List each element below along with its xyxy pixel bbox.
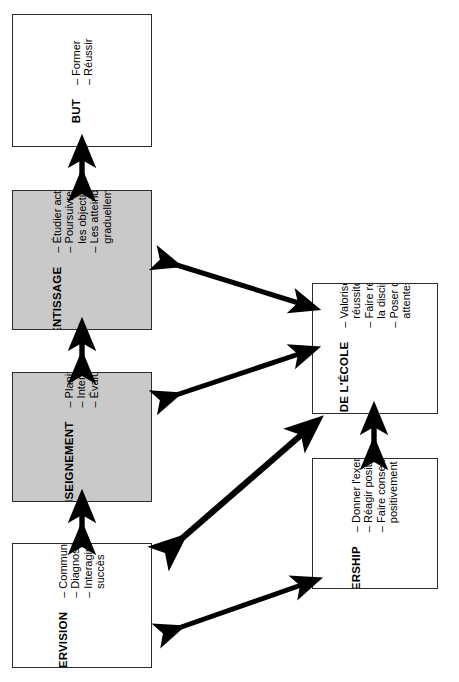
list-item: – Interagir (76, 372, 88, 408)
box-apprentissage-items: – Étudier activement – Poursuivre tousle… (51, 190, 113, 253)
list-item: – Donner l'exemple (350, 458, 362, 532)
cropped-header-text (96, 0, 326, 6)
list-item: – Étudier activement (51, 190, 63, 253)
list-item-continuation: les objectifs (76, 190, 88, 253)
box-leadership-items: – Donner l'exemple – Réagir positivement… (350, 458, 400, 532)
connector-apprentissage-climat (167, 262, 305, 305)
list-item-continuation: positivement (387, 458, 399, 532)
diagram-canvas: BUT – Former – Réussir APPRENTISSAGE – É… (0, 0, 459, 682)
list-item-continuation: la discipline (375, 283, 387, 327)
list-item: – Interagir avecsuccès (82, 543, 107, 597)
list-item: – Réagir positivement (363, 458, 375, 532)
box-enseignement[interactable]: ENSEIGNEMENT – Planifier – Interagir – É… (12, 372, 152, 502)
list-item: – Communiquer (57, 543, 69, 597)
box-supervision-content: SUPERVISION – Communiquer – Diagnostique… (57, 543, 107, 668)
box-leadership-content: LEADERSHIP – Donner l'exemple – Réagir p… (350, 458, 400, 589)
box-apprentissage[interactable]: APPRENTISSAGE – Étudier activement – Pou… (12, 190, 152, 330)
list-item: – Réussir (82, 38, 94, 84)
list-item: – Former (70, 40, 82, 85)
list-item-continuation: attentes élevées (400, 283, 412, 327)
box-leadership-title: LEADERSHIP (350, 532, 362, 589)
list-item: – Faire régnerla discipline (363, 283, 388, 327)
box-but-content: BUT – Former – Réussir (70, 38, 95, 123)
list-item-continuation: graduellement (101, 190, 113, 253)
box-apprentissage-content: APPRENTISSAGE – Étudier activement – Pou… (51, 190, 113, 330)
list-item: – Poser desattentes élevées (387, 283, 412, 327)
list-item: – Évaluer (88, 372, 100, 408)
box-but-items: – Former – Réussir (70, 38, 95, 84)
box-climat-title: CLIMAT DE L'ÉCOLE (338, 327, 350, 414)
list-item-continuation: réussite scolaire (350, 283, 362, 327)
list-item: – Valoriser laréussite scolaire (338, 283, 363, 327)
box-climat-items: – Valoriser laréussite scolaire – Faire … (338, 283, 412, 327)
list-item: – Planifier (63, 372, 75, 408)
list-item: – Diagnostiquer (70, 543, 82, 597)
box-but[interactable]: BUT – Former – Réussir (12, 14, 152, 147)
box-enseignement-title: ENSEIGNEMENT (63, 408, 75, 502)
box-enseignement-content: ENSEIGNEMENT – Planifier – Interagir – É… (63, 372, 100, 502)
box-apprentissage-title: APPRENTISSAGE (51, 253, 63, 330)
box-supervision[interactable]: SUPERVISION – Communiquer – Diagnostique… (12, 543, 152, 668)
box-climat-de-lecole[interactable]: CLIMAT DE L'ÉCOLE – Valoriser laréussite… (312, 283, 438, 414)
connector-enseignement-climat (167, 352, 305, 398)
box-enseignement-items: – Planifier – Interagir – Évaluer (63, 372, 100, 408)
connector-supervision-leadership (170, 583, 307, 631)
box-but-title: BUT (70, 85, 82, 123)
list-item: – Les atteindregraduellement (88, 190, 113, 253)
box-supervision-items: – Communiquer – Diagnostiquer – Interagi… (57, 543, 107, 597)
list-item-continuation: succès (94, 543, 106, 597)
box-climat-content: CLIMAT DE L'ÉCOLE – Valoriser laréussite… (338, 283, 412, 414)
box-leadership[interactable]: LEADERSHIP – Donner l'exemple – Réagir p… (312, 458, 438, 589)
list-item: – Faire consensuspositivement (375, 458, 400, 532)
list-item: – Poursuivre tousles objectifs (63, 190, 88, 253)
box-supervision-title: SUPERVISION (57, 597, 69, 668)
connector-enseignement-leadership (172, 429, 308, 547)
